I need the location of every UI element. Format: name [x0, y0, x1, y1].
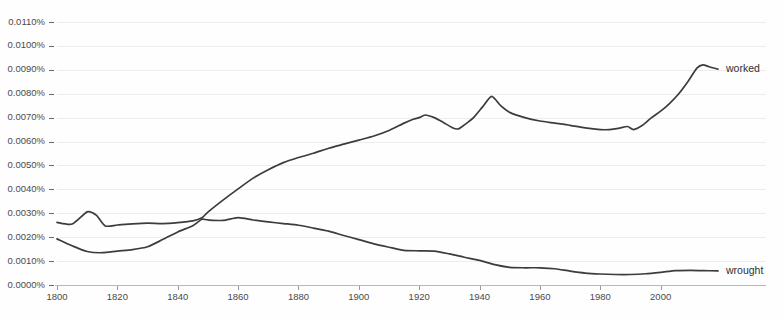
- series-line-worked: [57, 65, 718, 227]
- x-tick-label: 1820: [107, 291, 128, 302]
- x-tick-label: 1800: [46, 291, 67, 302]
- series-lines: [57, 65, 718, 275]
- series-inline-labels: workedwrought: [725, 62, 763, 276]
- y-tick-label: 0.0020%: [7, 231, 45, 242]
- y-tick-label: 0.0100%: [7, 39, 45, 50]
- y-tick-label: 0.0050%: [7, 159, 45, 170]
- y-tick-label: 0.0040%: [7, 183, 45, 194]
- x-tick-label: 1900: [348, 291, 369, 302]
- y-tick-label: 0.0010%: [7, 255, 45, 266]
- y-tick-label: 0.0030%: [7, 207, 45, 218]
- y-tick-label: 0.0000%: [7, 279, 45, 290]
- gridlines: [57, 23, 766, 262]
- y-tick-label: 0.0090%: [7, 63, 45, 74]
- x-tick-label: 1920: [409, 291, 430, 302]
- x-tick-label: 1840: [167, 291, 188, 302]
- x-tick-label: 1960: [529, 291, 550, 302]
- x-axis-tick-labels: 1800182018401860188019001920194019601980…: [46, 291, 671, 302]
- series-label-wrought: wrought: [725, 264, 763, 276]
- x-tick-label: 1940: [469, 291, 490, 302]
- x-tick-label: 1880: [288, 291, 309, 302]
- y-tick-label: 0.0080%: [7, 87, 45, 98]
- series-label-worked: worked: [725, 62, 760, 74]
- series-line-wrought: [57, 218, 718, 275]
- y-tick-label: 0.0060%: [7, 135, 45, 146]
- y-axis-tick-dashes: [49, 23, 54, 286]
- ngram-chart-container: 0.0110%0.0100%0.0090%0.0080%0.0070%0.006…: [0, 0, 783, 319]
- y-tick-label: 0.0070%: [7, 111, 45, 122]
- x-tick-label: 1860: [228, 291, 249, 302]
- y-tick-label: 0.0110%: [8, 16, 45, 27]
- y-axis-tick-labels: 0.0110%0.0100%0.0090%0.0080%0.0070%0.006…: [7, 16, 45, 290]
- x-axis-tick-marks: [58, 286, 662, 290]
- x-tick-label: 1980: [590, 291, 611, 302]
- x-tick-label: 2000: [650, 291, 671, 302]
- ngram-line-chart: 0.0110%0.0100%0.0090%0.0080%0.0070%0.006…: [0, 0, 783, 319]
